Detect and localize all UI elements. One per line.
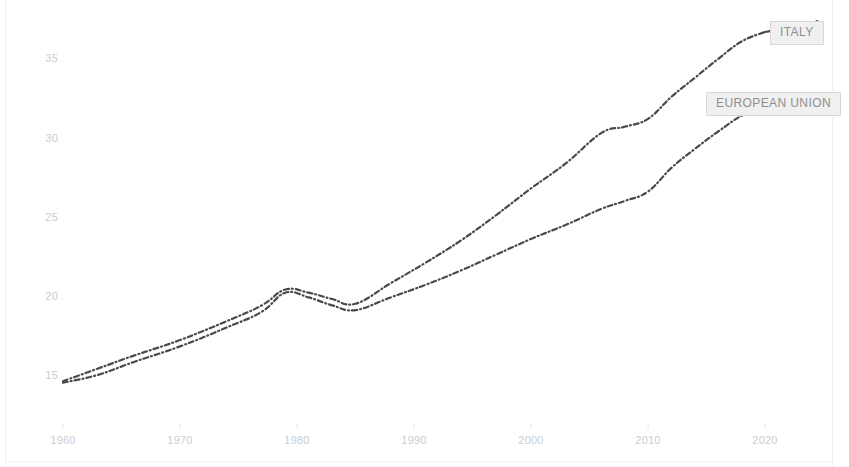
y-tick-label-30: 30 [24,132,58,144]
y-tick-label-25: 25 [24,211,58,223]
series-label-european-union[interactable]: EUROPEAN UNION [706,92,841,116]
series-line-european-union [63,106,765,383]
x-tick-label-1990: 1990 [384,434,444,446]
series-line-italy [63,32,765,381]
x-tick-label-2010: 2010 [618,434,678,446]
x-tick-label-1980: 1980 [267,434,327,446]
x-tick-label-1970: 1970 [150,434,210,446]
y-tick-label-35: 35 [24,52,58,64]
y-tick-label-15: 15 [24,369,58,381]
plot-area [0,0,849,467]
x-tick-label-2020: 2020 [735,434,795,446]
line-chart: 35 30 25 20 15 1960 1970 1980 1990 2000 … [0,0,849,467]
y-tick-label-20: 20 [24,290,58,302]
x-tick-marks [63,424,765,429]
x-tick-label-2000: 2000 [501,434,561,446]
x-tick-label-1960: 1960 [33,434,93,446]
series-label-italy[interactable]: ITALY [770,21,824,45]
